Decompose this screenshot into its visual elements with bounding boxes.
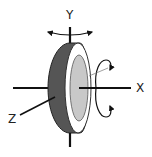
y-axis-label: Y <box>65 8 74 22</box>
axes-disc-diagram: Y X Z <box>0 0 152 157</box>
x-axis-label: X <box>136 81 144 95</box>
x-rotation-arrow-bottom-icon <box>96 88 111 117</box>
x-rotation-arrow-top-icon <box>96 60 111 88</box>
z-axis-label: Z <box>8 112 16 126</box>
leader-line <box>89 68 108 76</box>
